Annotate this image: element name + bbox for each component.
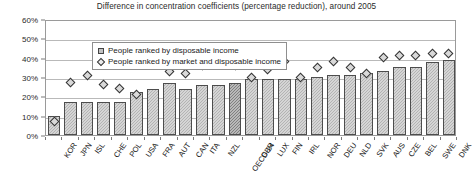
x-tick-mark (456, 137, 457, 140)
x-tick-mark (275, 137, 276, 140)
diamond-marker (99, 80, 109, 90)
bar (229, 83, 241, 135)
category-group (227, 21, 243, 135)
x-tick-label: GBR (259, 141, 276, 160)
bar (245, 79, 257, 135)
chart-legend: People ranked by disposable income Peopl… (92, 42, 287, 70)
x-tick-mark (374, 137, 375, 140)
x-tick-mark (308, 137, 309, 140)
category-group (260, 21, 276, 135)
category-group (408, 21, 424, 135)
x-tick-mark (78, 137, 79, 140)
x-tick-label: AUT (177, 141, 193, 159)
legend-item-disposable-income: People ranked by disposable income (96, 45, 281, 56)
x-tick-label: DEU (342, 141, 359, 159)
x-tick-mark (390, 137, 391, 140)
category-group (375, 21, 391, 135)
bar (344, 75, 356, 135)
diamond-marker (427, 49, 437, 59)
x-tick-mark (193, 137, 194, 140)
x-tick-mark (94, 137, 95, 140)
x-tick-mark (407, 137, 408, 140)
x-tick-mark (61, 137, 62, 140)
bar (360, 73, 372, 135)
category-group (62, 21, 78, 135)
category-group (95, 21, 111, 135)
category-group (210, 21, 226, 135)
x-tick-label: CZE (407, 141, 423, 159)
bar (97, 102, 109, 135)
x-tick-mark (341, 137, 342, 140)
x-tick-mark (144, 137, 145, 140)
bar (426, 62, 438, 135)
x-tick-mark (440, 137, 441, 140)
bar (377, 71, 389, 135)
legend-item-market-and-disposable-income: People ranked by market and disposable i… (96, 56, 281, 67)
bar (393, 67, 405, 135)
x-tick-mark (242, 137, 243, 140)
x-tick-mark (226, 137, 227, 140)
category-group (325, 21, 341, 135)
category-group (358, 21, 374, 135)
x-tick-mark (357, 137, 358, 140)
x-tick-label: ISL (93, 141, 107, 156)
category-group (276, 21, 292, 135)
x-tick-label: NLD (358, 141, 374, 159)
bar (410, 67, 422, 135)
x-tick-label: KOR (62, 141, 79, 160)
series-layer (46, 21, 455, 135)
bar (327, 75, 339, 135)
category-group (194, 21, 210, 135)
y-tick-label: 40% (22, 54, 38, 63)
x-tick-label: FRA (160, 141, 176, 159)
bar (278, 79, 290, 135)
category-group (178, 21, 194, 135)
x-tick-label: AUS (391, 141, 407, 159)
bar (81, 102, 93, 135)
legend-label: People ranked by market and disposable i… (108, 57, 281, 66)
chart-title: Difference in concentration coefficients… (0, 2, 473, 11)
x-tick-mark (423, 137, 424, 140)
bar (295, 79, 307, 135)
diamond-marker (66, 78, 76, 88)
x-tick-label: NZL (226, 141, 242, 158)
chart-container: Difference in concentration coefficients… (0, 0, 473, 185)
diamond-marker (82, 70, 92, 80)
y-tick-label: 10% (22, 112, 38, 121)
x-tick-label: ITA (208, 141, 222, 155)
x-tick-mark (324, 137, 325, 140)
x-tick-mark (209, 137, 210, 140)
x-tick-label: CHE (111, 141, 128, 159)
y-tick-label: 20% (22, 93, 38, 102)
category-group (46, 21, 62, 135)
x-tick-label: NOR (325, 141, 342, 160)
x-tick-label: FIN (291, 141, 305, 156)
bar (212, 85, 224, 135)
diamond-marker (411, 51, 421, 61)
diamond-swatch-icon (97, 57, 105, 65)
y-axis: 0%10%20%30%40%50%60% (0, 20, 45, 136)
diamond-marker (312, 62, 322, 72)
y-tick-label: 50% (22, 35, 38, 44)
bar (179, 89, 191, 135)
diamond-marker (115, 84, 125, 94)
diamond-marker (329, 57, 339, 67)
x-tick-mark (111, 137, 112, 140)
x-tick-label: SWE (441, 141, 458, 160)
bar (114, 102, 126, 135)
x-tick-label: SVK (374, 141, 390, 159)
category-group (293, 21, 309, 135)
category-group (309, 21, 325, 135)
x-tick-mark (127, 137, 128, 140)
category-group (161, 21, 177, 135)
diamond-marker (378, 53, 388, 63)
y-tick-label: 0% (26, 132, 38, 141)
y-tick-label: 30% (22, 74, 38, 83)
category-group (128, 21, 144, 135)
plot-area: People ranked by disposable income Peopl… (45, 20, 456, 136)
bar (311, 77, 323, 135)
y-tick-label: 60% (22, 16, 38, 25)
category-group (243, 21, 259, 135)
category-group (424, 21, 440, 135)
x-axis: KORJPNISLCHEPOLUSAFRAAUTCANITANZLOECD-24… (45, 137, 456, 185)
